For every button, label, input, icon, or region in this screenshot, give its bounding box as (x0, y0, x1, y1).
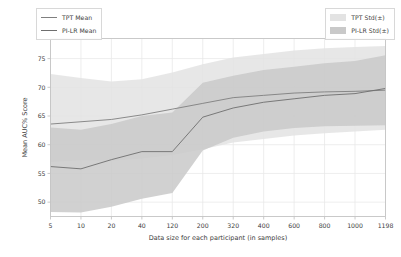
line-marker-icon (41, 30, 57, 31)
legend-item-tpt-mean: TPT Mean (41, 12, 96, 23)
svg-text:60: 60 (38, 141, 46, 148)
band-swatch-icon (330, 14, 346, 21)
svg-text:1198: 1198 (378, 222, 394, 229)
legend-item-pilr-mean: PI-LR Mean (41, 25, 96, 36)
svg-text:400: 400 (258, 222, 270, 229)
legend-std-bands: TPT Std(±) PI-LR Std(±) (325, 8, 395, 40)
legend-item-tpt-std: TPT Std(±) (330, 12, 389, 23)
legend-mean-lines: TPT Mean PI-LR Mean (36, 8, 102, 40)
svg-text:50: 50 (38, 198, 46, 205)
svg-text:40: 40 (138, 222, 146, 229)
legend-label-tpt-std: TPT Std(±) (351, 14, 385, 22)
svg-text:55: 55 (38, 170, 46, 177)
legend-item-pilr-std: PI-LR Std(±) (330, 25, 389, 36)
svg-text:Mean AUC% Score: Mean AUC% Score (21, 98, 29, 158)
svg-text:800: 800 (319, 222, 331, 229)
svg-text:10: 10 (77, 222, 85, 229)
svg-text:5: 5 (49, 222, 53, 229)
svg-text:75: 75 (38, 55, 46, 62)
legend-label-pilr-std: PI-LR Std(±) (351, 27, 389, 35)
svg-text:320: 320 (227, 222, 239, 229)
chart-figure: 5055606570755102040120200320400600800100… (0, 0, 401, 257)
line-marker-icon (41, 17, 57, 18)
svg-text:1000: 1000 (347, 222, 363, 229)
legend-label-pilr-mean: PI-LR Mean (62, 27, 96, 35)
svg-text:70: 70 (38, 84, 46, 91)
svg-text:120: 120 (166, 222, 178, 229)
svg-text:20: 20 (107, 222, 115, 229)
svg-text:600: 600 (288, 222, 300, 229)
band-swatch-icon (330, 27, 346, 34)
svg-text:200: 200 (197, 222, 209, 229)
svg-text:Data size for each participant: Data size for each participant (in sampl… (149, 234, 287, 242)
legend-label-tpt-mean: TPT Mean (62, 14, 92, 22)
svg-text:65: 65 (38, 112, 46, 119)
